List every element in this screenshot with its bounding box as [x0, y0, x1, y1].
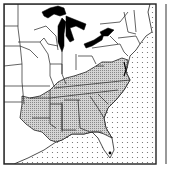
range-map [0, 0, 170, 169]
location-marker [109, 152, 112, 155]
